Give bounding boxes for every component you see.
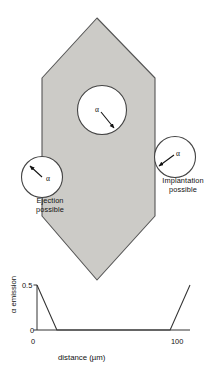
crystal-outline [42,18,155,280]
ejection-line-2: possible [22,205,78,214]
y-tick-label-top: 0.5 [22,281,32,290]
x-tick-label-right: 100 [171,337,183,346]
figure-canvas: α α α Ejection possible [0,0,218,375]
recoil-circle-interior [78,86,127,135]
implantation-annotation: Implantation possible [150,176,216,194]
y-axis-title: α emission [9,269,18,321]
implantation-line-1: Implantation [150,176,216,185]
alpha-label-left: α [46,174,50,183]
recoil-sphere-right-edge: α [155,137,196,178]
x-tick-label-left: 0 [31,337,35,346]
ejection-line-1: Ejection [22,196,78,205]
implantation-line-2: possible [150,185,216,194]
recoil-sphere-left-edge: α [22,157,63,198]
emission-curve [37,285,190,330]
recoil-circle-right [155,137,196,178]
y-tick-label-bottom: 0 [30,326,34,335]
emission-plot [34,285,191,330]
recoil-sphere-interior: α [78,86,127,135]
alpha-label-right: α [176,149,180,158]
ejection-annotation: Ejection possible [22,196,78,214]
x-axis-title: distance (µm) [58,353,105,362]
alpha-label-interior: α [95,105,99,114]
